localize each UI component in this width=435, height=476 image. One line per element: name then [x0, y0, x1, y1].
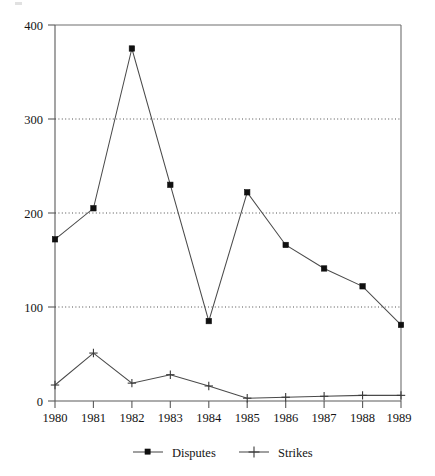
xtick-label-1984: 1984 [196, 411, 222, 425]
data-point-disputes-1988 [360, 284, 365, 289]
y-tick-labels: 0 100 200 300 400 [24, 19, 43, 409]
xtick-label-1985: 1985 [235, 411, 260, 425]
data-point-disputes-1984 [206, 318, 211, 323]
data-point-disputes-1982 [129, 46, 134, 51]
gridlines [55, 119, 401, 307]
xtick-label-1987: 1987 [312, 411, 337, 425]
ytick-label-100: 100 [24, 301, 43, 315]
series-strikes [51, 349, 405, 403]
legend-item-strikes[interactable]: Strikes [239, 446, 313, 460]
data-point-disputes-1987 [321, 266, 326, 271]
series-line-disputes [55, 49, 401, 325]
data-point-disputes-1985 [245, 190, 250, 195]
legend-item-disputes[interactable]: Disputes [133, 446, 216, 460]
legend-marker-square-icon [145, 449, 150, 454]
ytick-label-300: 300 [24, 113, 43, 127]
xtick-label-1982: 1982 [119, 411, 144, 425]
data-point-disputes-1986 [283, 242, 288, 247]
data-point-disputes-1981 [91, 206, 96, 211]
series-disputes [52, 46, 403, 328]
x-tick-marks [55, 401, 401, 408]
data-point-disputes-1989 [398, 322, 403, 327]
series-layer [51, 46, 405, 403]
legend-label-strikes: Strikes [278, 446, 313, 460]
chart-legend: Disputes Strikes [133, 446, 313, 460]
xtick-label-1981: 1981 [81, 411, 106, 425]
x-tick-labels: 1980 1981 1982 1983 1984 1985 1986 1987 … [43, 411, 412, 425]
line-chart-figure: 0 100 200 300 400 1980 1981 1982 1983 19… [0, 0, 435, 476]
xtick-label-1989: 1989 [387, 411, 412, 425]
chart-canvas: 0 100 200 300 400 1980 1981 1982 1983 19… [0, 0, 435, 476]
ytick-label-400: 400 [24, 19, 43, 33]
series-line-strikes [55, 353, 401, 398]
data-point-disputes-1983 [168, 182, 173, 187]
scan-smudge [15, 2, 22, 5]
y-tick-marks [48, 25, 55, 401]
legend-label-disputes: Disputes [172, 446, 216, 460]
xtick-label-1980: 1980 [43, 411, 68, 425]
data-point-disputes-1980 [52, 237, 57, 242]
xtick-label-1988: 1988 [350, 411, 375, 425]
xtick-label-1986: 1986 [273, 411, 298, 425]
xtick-label-1983: 1983 [158, 411, 183, 425]
ytick-label-0: 0 [37, 395, 43, 409]
ytick-label-200: 200 [24, 207, 43, 221]
